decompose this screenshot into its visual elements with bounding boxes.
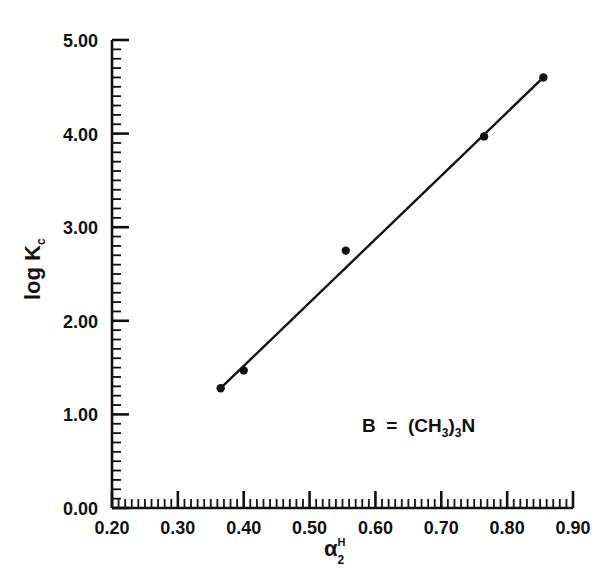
y-axis-title: log Kc <box>20 238 48 300</box>
annotation-base-identity: B = (CH3)3N <box>362 415 475 440</box>
x-axis-title-superscript: H <box>338 536 346 548</box>
scatter-plot-canvas: 0.001.002.003.004.005.00 0.200.300.400.5… <box>0 0 606 568</box>
x-axis-tick-label: 0.70 <box>424 518 459 538</box>
x-axis-tick-labels: 0.200.300.400.500.600.700.800.90 <box>94 518 590 538</box>
chart-figure: 0.001.002.003.004.005.00 0.200.300.400.5… <box>0 0 606 568</box>
trend-line <box>221 77 544 388</box>
y-axis-tick-label: 0.00 <box>63 499 98 519</box>
y-axis-title-subscript: c <box>34 238 48 245</box>
x-axis-title: αH2 <box>324 536 346 567</box>
annotation-base: B <box>362 415 376 436</box>
x-axis-title-subscript: 2 <box>337 553 344 567</box>
x-axis-title-symbol: α <box>324 536 338 561</box>
y-axis-tick-label: 5.00 <box>63 31 98 51</box>
axes-group <box>112 40 573 508</box>
x-axis-tick-label: 0.50 <box>292 518 327 538</box>
svg-text:B = (CH3)3N: B = (CH3)3N <box>362 415 475 440</box>
y-axis-tick-label: 2.00 <box>63 312 98 332</box>
annotation-formula: CH <box>414 415 441 436</box>
data-point-marker <box>539 73 547 81</box>
x-axis-tick-label: 0.60 <box>358 518 393 538</box>
y-axis-minor-ticks <box>112 49 121 498</box>
y-axis-tick-label: 3.00 <box>63 218 98 238</box>
data-point-marker <box>240 366 248 374</box>
data-point-marker <box>480 132 488 140</box>
annotation-element: N <box>461 415 475 436</box>
x-axis-minor-ticks <box>119 499 567 508</box>
y-axis-title-prefix: log <box>20 267 45 300</box>
data-point-marker <box>342 246 350 254</box>
x-axis-tick-label: 0.20 <box>94 518 129 538</box>
y-axis-tick-label: 4.00 <box>63 125 98 145</box>
annotation-equals: = <box>386 415 397 436</box>
y-axis-tick-label: 1.00 <box>63 405 98 425</box>
x-axis-tick-label: 0.30 <box>160 518 195 538</box>
x-axis-tick-label: 0.90 <box>555 518 590 538</box>
svg-text:αH2: αH2 <box>324 536 346 567</box>
x-axis-tick-label: 0.80 <box>490 518 525 538</box>
svg-text:log Kc: log Kc <box>20 238 48 300</box>
data-point-marker <box>216 384 224 392</box>
y-axis-tick-labels: 0.001.002.003.004.005.00 <box>63 31 98 519</box>
y-axis-title-symbol: K <box>20 245 45 261</box>
x-axis-tick-label: 0.40 <box>226 518 261 538</box>
